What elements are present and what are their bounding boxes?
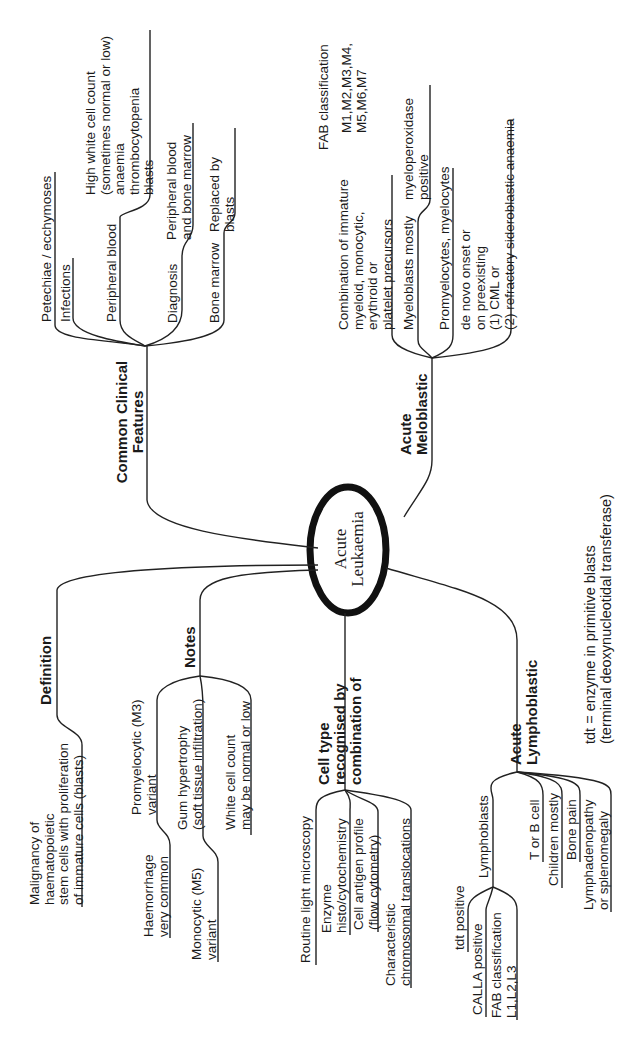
branch-cell-type: Cell type recognised by combination of (316, 678, 364, 786)
al-fab-classification: FAB classification L1,L2,L3 (490, 912, 519, 1018)
branch-acute-meloblastic: Acute Meloblastic (398, 373, 430, 455)
ccf-infections: Infections (59, 264, 74, 322)
branch-common-clinical-features: Common Clinical Features (114, 357, 146, 487)
notes-gum-hypertrophy: Gum hypertrophy (soft tissue infiltratio… (176, 699, 205, 830)
cell-type-enzyme: Enzyme histo/cytochemistry (320, 818, 349, 933)
am-fab-label: FAB classification (317, 44, 332, 150)
ccf-diagnosis: Diagnosis (166, 264, 181, 323)
branch-definition: Definition (38, 636, 54, 705)
am-fab-value: M1,M2,M3,M4, M5,M6,M7 (340, 43, 369, 133)
ccf-diagnosis-detail: Peripheral blood and bone marrow (165, 135, 194, 240)
cell-type-chromosomal: Characteristic chromosomal translocation… (384, 818, 413, 986)
notes-haemorrhage: Haemorrhage very common (142, 854, 171, 937)
al-bone-pain: Bone pain (565, 799, 580, 860)
al-tdt-positive: tdt positive (453, 885, 468, 950)
notes-white-cell-count: White cell count may be normal or low (224, 701, 253, 830)
am-promyelocytes: Promyelocytes, myelocytes (438, 166, 453, 330)
center-node-label: Acute Leukaemia (332, 501, 366, 597)
al-lymphoblasts: Lymphoblasts (477, 795, 492, 878)
am-de-novo: de novo onset or on preexisting (1) CML … (459, 118, 517, 330)
ccf-bone-marrow: Bone marrow (208, 243, 223, 323)
ccf-petechiae: Petechiae / ecchymoses (40, 176, 55, 322)
definition-text: Malignancy of haematopoietic stem cells … (28, 743, 86, 905)
al-children-mostly: Children mostly (547, 793, 562, 886)
am-myeloblasts-detail: myeloperoxidase positive (402, 98, 431, 200)
branch-notes: Notes (182, 626, 198, 668)
ccf-peripheral-blood: Peripheral blood (105, 224, 120, 322)
branch-acute-lymphoblastic: Acute Lymphoblastic (508, 660, 540, 765)
cell-type-microscopy: Routine light microscopy (299, 816, 314, 963)
al-t-or-b-cell: T or B cell (528, 799, 543, 860)
notes-monocytic: Monocytic (M5) variant (190, 868, 219, 960)
al-calla-positive: CALLA positive (471, 923, 486, 1015)
notes-promyelocytic: Promyelocytic (M3) variant (130, 699, 159, 815)
am-myeloblasts: Myeloblasts mostly (402, 216, 417, 330)
ccf-peripheral-blood-detail: High white cell count (sometimes normal … (84, 36, 157, 195)
ccf-bone-marrow-detail: Replaced by blasts (208, 157, 237, 232)
footnote-tdt: tdt = enzyme in primitive blasts (termin… (582, 494, 614, 744)
cell-type-antigen: Cell antigen profile (flow cytometry) (352, 818, 381, 930)
al-lymphadenopathy: Lymphadenopathy or splenomegaly (582, 799, 611, 910)
mind-map: Acute Leukaemia Common Clinical Features… (0, 0, 638, 1049)
am-combination: Combination of immature myeloid, monocyt… (337, 179, 395, 330)
